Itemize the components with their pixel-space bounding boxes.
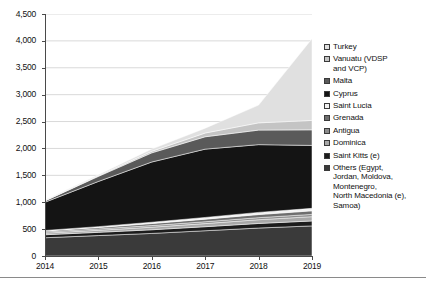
legend-item[interactable]: Cyprus [324, 89, 424, 98]
legend-item-label: Vanuatu (VDSP and VCP) [333, 54, 388, 73]
legend-item[interactable]: Dominica [324, 138, 424, 147]
legend-item-label: Turkey [333, 42, 357, 51]
bottom-rule [0, 277, 426, 278]
legend-item[interactable]: Turkey [324, 42, 424, 51]
x-axis-tick-label: 2016 [132, 261, 172, 271]
plot-svg [45, 14, 313, 257]
x-tick-mark [312, 257, 313, 260]
legend-swatch-icon [324, 44, 330, 50]
legend-item-label: Saint Kitts (e) [333, 151, 380, 160]
legend-swatch-icon [324, 56, 330, 62]
chart-legend: TurkeyVanuatu (VDSP and VCP)MaltaCyprusS… [324, 42, 424, 213]
legend-item[interactable]: Grenada [324, 113, 424, 122]
legend-swatch-icon [324, 103, 330, 109]
legend-item-label: Grenada [333, 113, 363, 122]
x-tick-mark [152, 257, 153, 260]
legend-swatch-icon [324, 78, 330, 84]
y-tick-mark [42, 68, 45, 69]
x-axis-tick-label: 2014 [25, 261, 65, 271]
x-axis-line [45, 256, 313, 257]
legend-item-label: Malta [333, 76, 352, 85]
y-axis-tick-label: 3,000 [0, 89, 36, 99]
y-tick-mark [42, 122, 45, 123]
y-axis-tick-label: 2,000 [0, 143, 36, 153]
legend-item[interactable]: Saint Kitts (e) [324, 151, 424, 160]
legend-item-label: Others (Egypt, Jordan, Moldova, Monteneg… [333, 163, 406, 210]
x-tick-mark [98, 257, 99, 260]
y-tick-mark [42, 95, 45, 96]
legend-item[interactable]: Vanuatu (VDSP and VCP) [324, 54, 424, 73]
y-axis-tick-label: 500 [0, 224, 36, 234]
x-axis-tick-label: 2015 [78, 261, 118, 271]
legend-item[interactable]: Antigua [324, 126, 424, 135]
y-axis-tick-label: 4,000 [0, 35, 36, 45]
legend-item[interactable]: Saint Lucia [324, 101, 424, 110]
y-tick-mark [42, 175, 45, 176]
y-tick-mark [42, 14, 45, 15]
legend-swatch-icon [324, 115, 330, 121]
x-axis-tick-label: 2017 [185, 261, 225, 271]
y-axis-line [45, 14, 46, 257]
y-axis-tick-label: 1,500 [0, 170, 36, 180]
legend-swatch-icon [324, 165, 330, 171]
y-tick-mark [42, 229, 45, 230]
stacked-area-chart: 05001,0001,5002,0002,5003,0003,5004,0004… [0, 0, 426, 285]
legend-swatch-icon [324, 128, 330, 134]
legend-swatch-icon [324, 153, 330, 159]
legend-swatch-icon [324, 91, 330, 97]
legend-swatch-icon [324, 140, 330, 146]
y-axis-tick-label: 2,500 [0, 116, 36, 126]
x-axis-tick-label: 2018 [239, 261, 279, 271]
x-axis-tick-label: 2019 [292, 261, 332, 271]
y-tick-mark [42, 148, 45, 149]
y-tick-mark [42, 202, 45, 203]
legend-item[interactable]: Others (Egypt, Jordan, Moldova, Monteneg… [324, 163, 424, 210]
legend-item-label: Cyprus [333, 89, 358, 98]
y-axis-tick-label: 1,000 [0, 197, 36, 207]
legend-item[interactable]: Malta [324, 76, 424, 85]
legend-item-label: Dominica [333, 138, 366, 147]
x-tick-mark [45, 257, 46, 260]
x-tick-mark [205, 257, 206, 260]
y-axis-tick-label: 4,500 [0, 9, 36, 19]
x-tick-mark [259, 257, 260, 260]
plot-area [45, 14, 313, 257]
legend-item-label: Antigua [333, 126, 359, 135]
y-tick-mark [42, 41, 45, 42]
legend-item-label: Saint Lucia [333, 101, 371, 110]
y-axis-tick-label: 0 [0, 251, 36, 261]
y-axis-tick-label: 3,500 [0, 62, 36, 72]
